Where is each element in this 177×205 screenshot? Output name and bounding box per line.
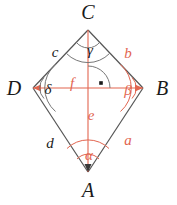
half-diagonal-label-f: f — [70, 76, 74, 91]
side-label-d: d — [46, 136, 54, 151]
angle-label-beta: β — [124, 83, 131, 98]
vertex-label-A: A — [82, 180, 94, 200]
side-b-line — [88, 30, 143, 88]
vertex-label-C: C — [81, 2, 94, 22]
side-label-a: a — [124, 133, 132, 148]
vertex-label-B: B — [156, 78, 168, 98]
side-label-b: b — [124, 46, 132, 61]
side-d-line — [33, 88, 88, 172]
right-angle-arc — [88, 66, 110, 88]
diagram-canvas: C D B A c b d a γ δ β α f e — [0, 0, 177, 205]
side-label-c: c — [52, 45, 59, 60]
half-diagonal-label-e: e — [88, 108, 95, 123]
rhombus-figure — [0, 0, 177, 205]
right-angle-dot-icon — [99, 81, 103, 85]
side-c-line — [33, 30, 88, 88]
angle-label-delta: δ — [45, 82, 52, 97]
side-a-line — [88, 88, 143, 172]
angle-label-gamma: γ — [87, 43, 93, 58]
vertex-label-D: D — [7, 78, 21, 98]
angle-label-alpha: α — [85, 148, 93, 163]
